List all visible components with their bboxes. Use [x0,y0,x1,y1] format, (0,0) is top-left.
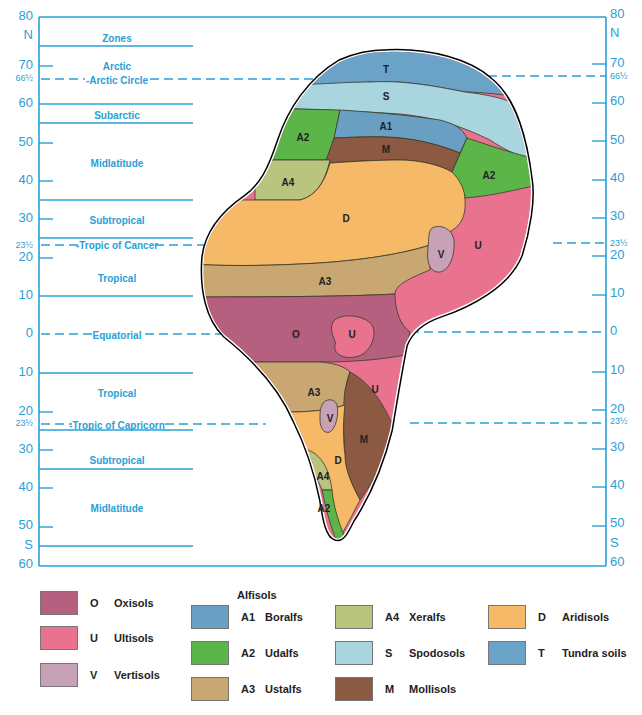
legend-code: V [90,669,110,681]
swatch-ultisols [40,626,78,650]
legend-code: U [90,632,110,644]
legend-item-ustalfs: A3 Ustalfs [191,677,302,701]
legend-item-ultisols: U Ultisols [40,626,154,650]
swatch-aridisols [488,605,526,629]
legend-label: Tundra soils [562,647,627,659]
legend-code: A1 [241,611,261,623]
legend-label: Vertisols [114,669,160,681]
legend-label: Udalfs [265,647,299,659]
legend-label: Oxisols [114,597,154,609]
legend-label: Ustalfs [265,683,302,695]
legend-label: Xeralfs [409,611,446,623]
legend-item-mollisols: M Mollisols [335,677,456,701]
legend-code: A4 [385,611,405,623]
legend-code: A2 [241,647,261,659]
legend-item-spodosols: S Spodosols [335,641,465,665]
swatch-oxisols [40,591,78,615]
legend-item-xeralfs: A4 Xeralfs [335,605,446,629]
swatch-udalfs [191,641,229,665]
swatch-vertisols [40,663,78,687]
legend-label: Ultisols [114,632,154,644]
legend-label: Aridisols [562,611,609,623]
legend-code: M [385,683,405,695]
legend-item-oxisols: O Oxisols [40,591,154,615]
legend-item-aridisols: D Aridisols [488,605,609,629]
legend-code: A3 [241,683,261,695]
legend-code: T [538,647,558,659]
legend-code: S [385,647,405,659]
legend-label: Mollisols [409,683,456,695]
legend-item-vertisols: V Vertisols [40,663,160,687]
legend-code: D [538,611,558,623]
swatch-tundra-soils [488,641,526,665]
legend-heading-alfisols: Alfisols [237,589,277,601]
swatch-spodosols [335,641,373,665]
swatch-ustalfs [191,677,229,701]
legend-code: O [90,597,110,609]
swatch-boralfs [191,605,229,629]
legend-item-tundra-soils: T Tundra soils [488,641,627,665]
swatch-mollisols [335,677,373,701]
legend-item-udalfs: A2 Udalfs [191,641,299,665]
legend-label: Spodosols [409,647,465,659]
legend: Alfisols O Oxisols U Ultisols V Vertisol… [0,0,642,715]
swatch-xeralfs [335,605,373,629]
legend-item-boralfs: A1 Boralfs [191,605,303,629]
legend-label: Boralfs [265,611,303,623]
